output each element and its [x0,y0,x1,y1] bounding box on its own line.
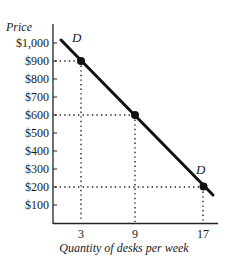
y-tick-label: $300 [25,162,49,176]
x-tick-label: 3 [78,227,84,241]
x-tick-label: 17 [197,227,209,241]
y-tick-label: $900 [25,54,49,68]
curve-label-d: D [195,162,206,177]
y-tick-label: $800 [25,72,49,86]
x-tick-labels: 3 9 17 [78,227,209,241]
data-point [200,183,208,191]
y-tick-label: $700 [25,90,49,104]
y-axis-title: Price [5,20,33,34]
x-tick-label: 9 [132,227,138,241]
y-tick-label: $400 [25,144,49,158]
demand-chart: Price $1,000 $900 $800 $700 $600 $500 $4… [0,0,233,267]
y-tick-label: $1,000 [16,36,49,50]
guide-lines [55,61,203,222]
y-tick-labels: $1,000 $900 $800 $700 $600 $500 $400 $30… [16,36,49,212]
y-tick-label: $100 [25,198,49,212]
y-tick-label: $600 [25,108,49,122]
data-point [131,111,139,119]
x-axis-title: Quantity of desks per week [59,241,189,255]
y-tick-label: $500 [25,126,49,140]
data-point [77,57,85,65]
y-tick-label: $200 [25,180,49,194]
curve-label-d: D [71,30,82,45]
